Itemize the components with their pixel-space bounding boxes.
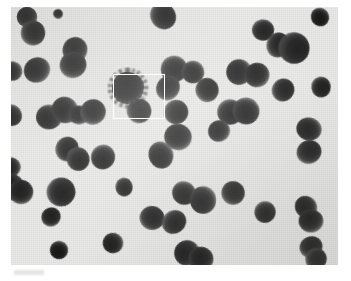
colony [114,177,133,198]
micrograph-figure [0,0,351,281]
colony [11,100,26,131]
colony [298,209,324,233]
colony [219,179,246,206]
colony [307,7,333,30]
colony [41,172,81,212]
colony [37,203,65,230]
colony [293,136,326,168]
colony [267,74,299,106]
colony-plate-image[interactable] [11,7,338,265]
colony [189,186,216,214]
colony [51,7,65,21]
colony [253,199,278,224]
colony [46,237,72,262]
colony [11,59,24,83]
colony [310,75,332,98]
colony [19,52,55,87]
colony [87,141,119,174]
plate-edge-artifact [14,270,44,275]
colony [11,175,38,209]
colony [20,20,46,47]
colony [75,94,111,130]
colony [100,230,125,255]
colony [145,7,182,35]
selection-box[interactable] [113,74,165,119]
